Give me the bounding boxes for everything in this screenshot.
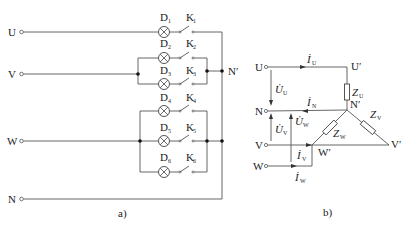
impedance-zu-icon [345,84,350,100]
caption-b: b) [323,206,333,219]
figure-a-lamp-load-circuit: U V W N [7,11,238,220]
svg-text:W: W [340,134,346,140]
switch-subscript: 1 [193,18,196,24]
terminal-n-icon [20,197,24,201]
voltage-uv-label: U̇ V [275,123,288,136]
impedance-zw-label: Z W [333,127,346,140]
arrow-icon [291,164,297,168]
lamp-subscript: 5 [168,128,171,134]
voltage-uw-label: U̇ W [295,115,309,128]
lamp-subscript: 2 [168,44,171,50]
branch-2: D 2 K 2 [159,37,208,64]
junction-dot [205,139,209,143]
arrow-icon [269,113,273,119]
terminal-v-icon [264,143,267,146]
branch-6: D 6 K 6 [159,151,208,178]
switch-icon[interactable] [180,166,189,172]
terminal-u-icon [20,30,24,34]
branch-4: D 4 K 4 [159,91,208,117]
switch-subscript: 3 [193,71,196,77]
impedance-zv-label: Z V [370,108,382,121]
svg-text:V: V [377,115,382,121]
svg-text:W: W [303,122,309,128]
branch-3: D 3 K 3 [159,64,208,90]
branch-5: D 5 K 5 [159,121,223,147]
terminal-label-n: N [8,193,16,205]
lamp-label: D [160,151,168,163]
lamp-subscript: 3 [168,71,171,77]
switch-icon[interactable] [180,105,189,111]
svg-text:Z: Z [333,127,340,139]
switch-subscript: 2 [193,44,196,50]
node-n-prime-label: N′ [350,98,360,110]
switch-subscript: 6 [193,158,196,164]
switch-icon[interactable] [180,26,189,32]
node-w-prime-label: W′ [318,146,331,158]
svg-text:V: V [283,130,288,136]
terminal-label-v: V [8,68,16,80]
terminal-label-n: N [255,105,263,117]
terminal-n-icon [264,109,267,112]
lamp-subscript: 4 [168,98,171,104]
junction-dot [138,139,142,143]
arrow-icon [302,109,308,113]
arrow-icon [300,65,306,69]
impedance-zu-label: Z U [352,86,364,99]
junction-dot [136,72,140,76]
terminal-label-u: U [255,61,263,73]
lamp-label: D [160,37,168,49]
caption-a: a) [118,207,127,220]
neutral-point-label: N′ [228,65,238,77]
switch-icon[interactable] [180,52,189,58]
switch-subscript: 4 [193,98,196,104]
svg-text:U: U [283,90,288,96]
arrow-icon [289,113,293,119]
lamp-label: D [160,11,168,23]
terminal-label-w: W [7,135,18,147]
lamp-subscript: 6 [168,158,171,164]
terminal-w-icon [20,139,24,143]
arrow-icon [269,100,273,106]
figure-b-star-load-circuit: U N V W [253,53,401,219]
wire-u [268,67,347,84]
junction-dot [220,69,224,73]
terminal-v-icon [20,72,24,76]
terminal-w-icon [264,164,267,167]
svg-text:Z: Z [370,108,377,120]
switch-icon[interactable] [180,78,189,84]
lamp-label: D [160,91,168,103]
impedance-zv-icon [360,120,375,134]
switch-icon[interactable] [180,135,189,141]
junction-dot [205,69,209,73]
current-in-label: İ N [306,96,317,109]
svg-text:Z: Z [352,86,359,98]
svg-text:U: U [312,60,317,66]
svg-text:N: N [312,103,317,109]
svg-text:V: V [302,156,307,162]
branch-1: D 1 K 1 [159,11,223,38]
terminal-label-w: W [253,160,264,172]
lamp-subscript: 1 [168,18,171,24]
terminal-u-icon [264,65,267,68]
node-u-prime-label: U′ [351,60,361,72]
arrow-icon [306,143,312,147]
junction-dot [220,139,224,143]
switch-subscript: 5 [193,128,196,134]
terminal-label-v: V [255,139,263,151]
lamp-label: D [160,64,168,76]
node-v-prime-label: V′ [391,138,401,150]
current-iu-label: İ U [306,53,317,66]
current-iw-label: İ W [294,171,306,184]
current-iv-label: İ V [296,149,307,162]
svg-text:U: U [359,93,364,99]
lamp-label: D [160,121,168,133]
svg-text:W: W [300,178,306,184]
terminal-label-u: U [8,26,16,38]
voltage-uu-label: U̇ U [275,83,288,96]
circuit-figure: U V W N [0,0,407,230]
